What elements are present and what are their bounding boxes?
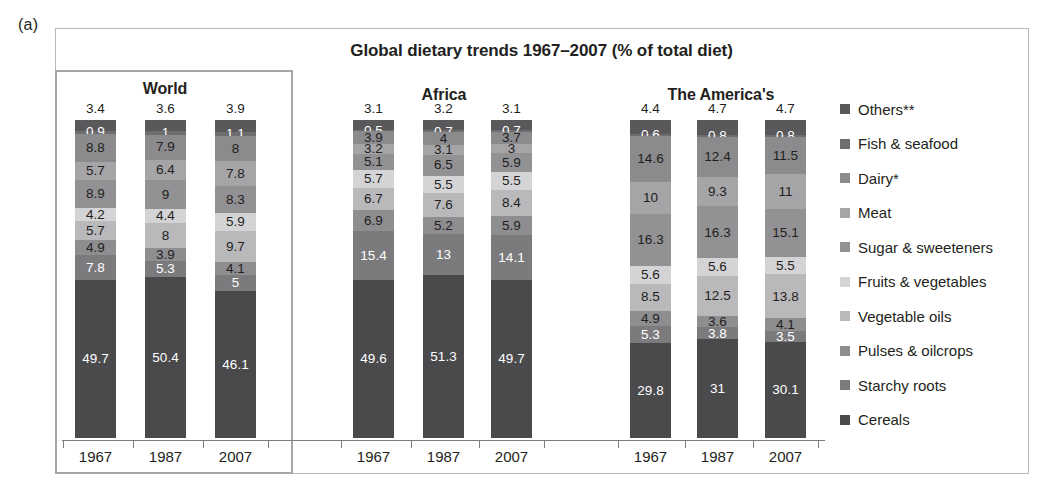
legend-item-label: Others** xyxy=(858,101,915,118)
axis-year-label: 1987 xyxy=(414,448,474,465)
legend-swatch-icon xyxy=(840,311,850,321)
axis-tick xyxy=(753,440,754,448)
axis-year-label: 1967 xyxy=(621,448,681,465)
legend-item[interactable]: Others** xyxy=(840,92,993,127)
legend-swatch-icon xyxy=(840,277,850,287)
legend-item[interactable]: Dairy* xyxy=(840,161,993,196)
legend-item[interactable]: Meat xyxy=(840,196,993,231)
legend-item[interactable]: Sugar & sweeteners xyxy=(840,230,993,265)
axis-tick xyxy=(479,440,480,448)
legend-swatch-icon xyxy=(840,380,850,390)
axis-year-label: 1967 xyxy=(66,448,126,465)
legend-item-label: Cereals xyxy=(858,411,910,428)
bar-top-value-label: 3.2 xyxy=(423,101,464,504)
axis-tick xyxy=(544,440,545,448)
legend-item-label: Fish & seafood xyxy=(858,135,958,152)
legend-swatch-icon xyxy=(840,104,850,114)
legend-item-label: Vegetable oils xyxy=(858,308,951,325)
axis-year-label: 2007 xyxy=(482,448,542,465)
bar-top-value-label: 3.6 xyxy=(145,101,186,504)
bar-top-value-label: 4.4 xyxy=(630,101,671,504)
legend-swatch-icon xyxy=(840,173,850,183)
legend-item[interactable]: Starchy roots xyxy=(840,368,993,403)
axis-year-label: 1987 xyxy=(136,448,196,465)
legend-item[interactable]: Vegetable oils xyxy=(840,299,993,334)
legend-swatch-icon xyxy=(840,346,850,356)
bar-top-value-label: 3.1 xyxy=(353,101,394,504)
axis-tick xyxy=(411,440,412,448)
axis-year-label: 2007 xyxy=(206,448,266,465)
legend: Others**Fish & seafoodDairy*MeatSugar & … xyxy=(840,92,993,437)
axis-tick xyxy=(341,440,342,448)
axis-year-label: 2007 xyxy=(756,448,816,465)
group-title-world: World xyxy=(75,80,255,98)
figure-panel-a: (a) Global dietary trends 1967–2007 (% o… xyxy=(0,0,1043,504)
axis-year-label: 1967 xyxy=(344,448,404,465)
bar-top-value-label: 3.9 xyxy=(215,101,256,504)
bar-top-value-label: 3.4 xyxy=(75,101,116,504)
axis-tick xyxy=(685,440,686,448)
axis-year-label: 1987 xyxy=(688,448,748,465)
legend-item[interactable]: Fruits & vegetables xyxy=(840,265,993,300)
axis-tick xyxy=(618,440,619,448)
legend-item[interactable]: Cereals xyxy=(840,403,993,438)
legend-swatch-icon xyxy=(840,139,850,149)
axis-tick xyxy=(268,440,269,448)
legend-item-label: Pulses & oilcrops xyxy=(858,342,973,359)
legend-swatch-icon xyxy=(840,208,850,218)
bar-top-value-label: 4.7 xyxy=(697,101,738,504)
legend-item-label: Meat xyxy=(858,204,891,221)
bar-top-value-label: 3.1 xyxy=(491,101,532,504)
legend-item-label: Sugar & sweeteners xyxy=(858,239,993,256)
legend-swatch-icon xyxy=(840,242,850,252)
axis-tick xyxy=(63,440,64,448)
x-axis-line xyxy=(62,440,825,441)
axis-tick xyxy=(818,440,819,448)
legend-item-label: Dairy* xyxy=(858,170,899,187)
bar-top-value-label: 4.7 xyxy=(765,101,806,504)
legend-item[interactable]: Pulses & oilcrops xyxy=(840,334,993,369)
axis-tick xyxy=(133,440,134,448)
legend-item-label: Starchy roots xyxy=(858,377,946,394)
legend-item-label: Fruits & vegetables xyxy=(858,273,986,290)
legend-swatch-icon xyxy=(840,415,850,425)
legend-item[interactable]: Fish & seafood xyxy=(840,127,993,162)
axis-tick xyxy=(203,440,204,448)
